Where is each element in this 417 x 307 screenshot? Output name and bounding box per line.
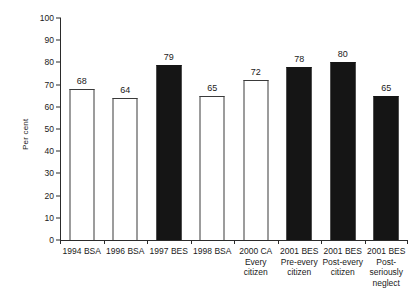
x-axis-tick-mark bbox=[104, 240, 105, 244]
x-axis-tick-mark bbox=[147, 240, 148, 244]
x-axis-category-label: 1996 BSA bbox=[104, 246, 148, 257]
bar-value-label: 65 bbox=[207, 84, 217, 93]
x-axis-tick-mark bbox=[234, 240, 235, 244]
y-axis-tick-label: 40 bbox=[45, 147, 54, 156]
y-axis-tick-label: 10 bbox=[45, 214, 54, 223]
x-axis-category-label-line: citizen bbox=[234, 267, 278, 278]
x-axis-category-label-line: Post-every bbox=[321, 257, 365, 268]
plot-area: 6864796572788065 bbox=[60, 18, 408, 240]
bar-column: 65 bbox=[365, 18, 409, 240]
bar bbox=[156, 65, 181, 240]
x-axis-category-label: 2000 CAEverycitizen bbox=[234, 246, 278, 278]
x-axis-category-label-line: seriously bbox=[365, 267, 409, 278]
x-axis-category-label-line: 2001 BES bbox=[365, 246, 409, 257]
bar-column: 80 bbox=[321, 18, 365, 240]
x-axis-category-label-line: citizen bbox=[321, 267, 365, 278]
y-axis-tick-label: 0 bbox=[49, 236, 54, 245]
x-axis-category-label-line: neglect bbox=[365, 278, 409, 289]
x-axis-category-label-line: 2001 BES bbox=[321, 246, 365, 257]
bar-column: 68 bbox=[60, 18, 104, 240]
bar-column: 78 bbox=[278, 18, 322, 240]
x-axis-category-label-line: 1997 BES bbox=[147, 246, 191, 257]
x-axis-tick-mark bbox=[278, 240, 279, 244]
y-axis-tick-label: 20 bbox=[45, 191, 54, 200]
bar-column: 64 bbox=[104, 18, 148, 240]
y-axis-tick-label: 60 bbox=[45, 103, 54, 112]
x-axis-category-label-line: Post- bbox=[365, 257, 409, 268]
bar-value-label: 64 bbox=[120, 86, 130, 95]
x-axis-category-label: 1997 BES bbox=[147, 246, 191, 257]
x-axis-tick-mark bbox=[60, 240, 61, 244]
x-axis-category-label-line: 2000 CA bbox=[234, 246, 278, 257]
y-axis-tick-label: 80 bbox=[45, 58, 54, 67]
x-axis-category-label-line: 1998 BSA bbox=[191, 246, 235, 257]
y-axis-tick-label: 70 bbox=[45, 80, 54, 89]
bar-column: 65 bbox=[191, 18, 235, 240]
x-axis-category-label-line: citizen bbox=[278, 267, 322, 278]
bar bbox=[330, 62, 355, 240]
bar-value-label: 68 bbox=[77, 77, 87, 86]
bar-value-label: 80 bbox=[338, 50, 348, 59]
bar-value-label: 72 bbox=[251, 68, 261, 77]
x-axis-category-label: 2001 BESPre-everycitizen bbox=[278, 246, 322, 278]
bar-value-label: 65 bbox=[381, 84, 391, 93]
bar bbox=[69, 89, 94, 240]
x-axis-category-label-line: Every bbox=[234, 257, 278, 268]
y-axis-tick-labels: 1009080706050403020100 bbox=[0, 0, 62, 250]
bar-column: 79 bbox=[147, 18, 191, 240]
x-axis-category-label-line: Pre-every bbox=[278, 257, 322, 268]
x-axis-category-label-line: 2001 BES bbox=[278, 246, 322, 257]
bar bbox=[113, 98, 138, 240]
x-axis-tick-mark bbox=[407, 240, 408, 244]
y-axis-tick-label: 30 bbox=[45, 169, 54, 178]
x-axis-category-labels: 1994 BSA1996 BSA1997 BES1998 BSA2000 CAE… bbox=[60, 246, 408, 302]
x-axis-tick-mark bbox=[365, 240, 366, 244]
x-axis-category-label: 1998 BSA bbox=[191, 246, 235, 257]
x-axis-category-label-line: 1994 BSA bbox=[60, 246, 104, 257]
bar-column: 72 bbox=[234, 18, 278, 240]
bar-chart-figure: Per cent 1009080706050403020100 68647965… bbox=[0, 0, 417, 307]
x-axis-tick-marks bbox=[60, 240, 408, 245]
x-axis-tick-mark bbox=[321, 240, 322, 244]
x-axis-tick-mark bbox=[191, 240, 192, 244]
y-axis-tick-label: 90 bbox=[45, 36, 54, 45]
y-axis-tick-label: 100 bbox=[40, 14, 54, 23]
bar bbox=[287, 67, 312, 240]
x-axis-category-label: 2001 BESPost-everycitizen bbox=[321, 246, 365, 278]
x-axis-category-label: 1994 BSA bbox=[60, 246, 104, 257]
bar bbox=[374, 96, 399, 240]
bar bbox=[200, 96, 225, 240]
x-axis-category-label-line: 1996 BSA bbox=[104, 246, 148, 257]
y-axis-tick-label: 50 bbox=[45, 125, 54, 134]
x-axis-category-label: 2001 BESPost-seriouslyneglect bbox=[365, 246, 409, 288]
bar-value-label: 78 bbox=[294, 55, 304, 64]
bar-value-label: 79 bbox=[164, 53, 174, 62]
bar bbox=[243, 80, 268, 240]
